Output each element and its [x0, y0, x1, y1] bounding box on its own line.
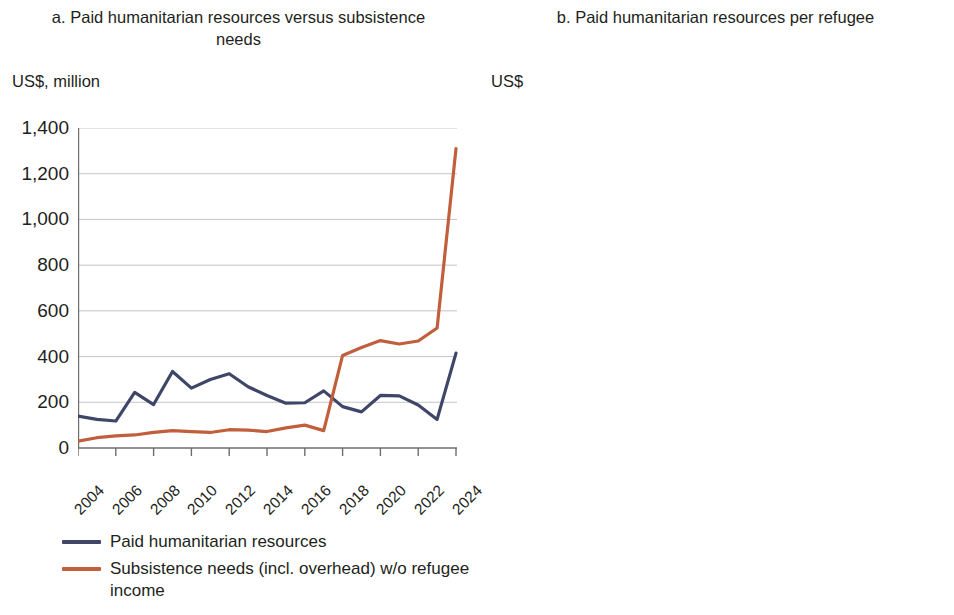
legend-line-icon — [62, 540, 101, 544]
y-axis-tick-label: 200 — [37, 391, 78, 413]
x-axis-tick-label: 2018 — [335, 481, 372, 518]
y-axis-tick-label: 400 — [37, 346, 78, 368]
x-axis-tick-label: 2010 — [184, 481, 221, 518]
series-line — [78, 353, 456, 421]
legend-item[interactable]: Subsistence needs (incl. overhead) w/o r… — [62, 558, 477, 602]
panel-b-y-axis-unit: US$ — [491, 72, 523, 91]
x-axis-tick-label: 2014 — [260, 481, 297, 518]
x-axis-tick-label: 2022 — [411, 481, 448, 518]
panel-a-plot: 02004006008001,0001,2001,400200420062008… — [78, 128, 456, 448]
panel-a-legend: Paid humanitarian resourcesSubsistence n… — [62, 531, 477, 607]
panel-a-y-axis-unit: US$, million — [12, 72, 100, 91]
x-axis-tick-label: 2020 — [373, 481, 410, 518]
panel-a-title: a. Paid humanitarian resources versus su… — [0, 6, 477, 51]
figure-root: a. Paid humanitarian resources versus su… — [0, 0, 954, 615]
legend-item-label: Subsistence needs (incl. overhead) w/o r… — [110, 558, 477, 602]
legend-item[interactable]: Paid humanitarian resources — [62, 531, 477, 553]
y-axis-tick-label: 600 — [37, 300, 78, 322]
y-axis-tick-label: 1,000 — [21, 208, 78, 230]
x-axis-tick-label: 2006 — [109, 481, 146, 518]
x-axis-tick-label: 2008 — [146, 481, 183, 518]
x-axis-tick-label: 2012 — [222, 481, 259, 518]
panel-b: b. Paid humanitarian resources per refug… — [477, 0, 954, 615]
panel-a: a. Paid humanitarian resources versus su… — [0, 0, 477, 615]
x-axis-tick-label: 2004 — [71, 481, 108, 518]
y-axis-tick-label: 1,200 — [21, 163, 78, 185]
plot-canvas — [78, 128, 470, 458]
y-axis-tick-label: 800 — [37, 254, 78, 276]
x-axis-tick-label: 2016 — [298, 481, 335, 518]
legend-item-label: Paid humanitarian resources — [110, 531, 326, 553]
legend-line-icon — [62, 567, 101, 571]
y-axis-tick-label: 0 — [58, 437, 78, 459]
panel-b-title: b. Paid humanitarian resources per refug… — [477, 6, 954, 28]
y-axis-tick-label: 1,400 — [21, 117, 78, 139]
